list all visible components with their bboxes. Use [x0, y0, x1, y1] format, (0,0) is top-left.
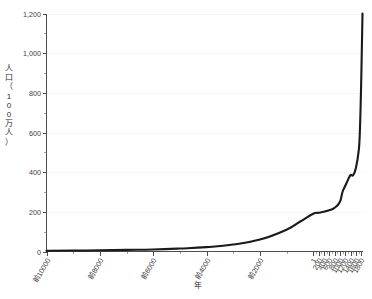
x-axis-ticks-group	[48, 252, 362, 256]
y-axis-tick-labels-group: 02004006008001,0001,200	[23, 10, 41, 257]
y-tick-label: 800	[29, 89, 41, 98]
population-series-line	[47, 14, 363, 251]
y-tick-label: 1,000	[23, 49, 41, 58]
x-tick-label: 前6000	[139, 257, 158, 281]
y-tick-label: 400	[29, 168, 41, 177]
x-tick-label: 前8000	[86, 257, 105, 281]
x-tick-label: 前2000	[246, 257, 265, 281]
y-tick-label: 600	[29, 129, 41, 138]
x-tick-label: 前4000	[193, 257, 212, 281]
x-axis-title: 年	[194, 280, 202, 290]
y-tick-label: 0	[37, 248, 41, 257]
chart-canvas: 02004006008001,0001,200 前10000前8000前6000…	[0, 0, 372, 299]
y-tick-label: 1,200	[23, 10, 41, 19]
x-tick-label: 前10000	[31, 257, 52, 285]
gridlines-group	[47, 15, 363, 213]
y-tick-label: 200	[29, 208, 41, 217]
population-line-chart: 人口（100万人） 02004006008001,0001,200 前10000…	[0, 0, 372, 299]
